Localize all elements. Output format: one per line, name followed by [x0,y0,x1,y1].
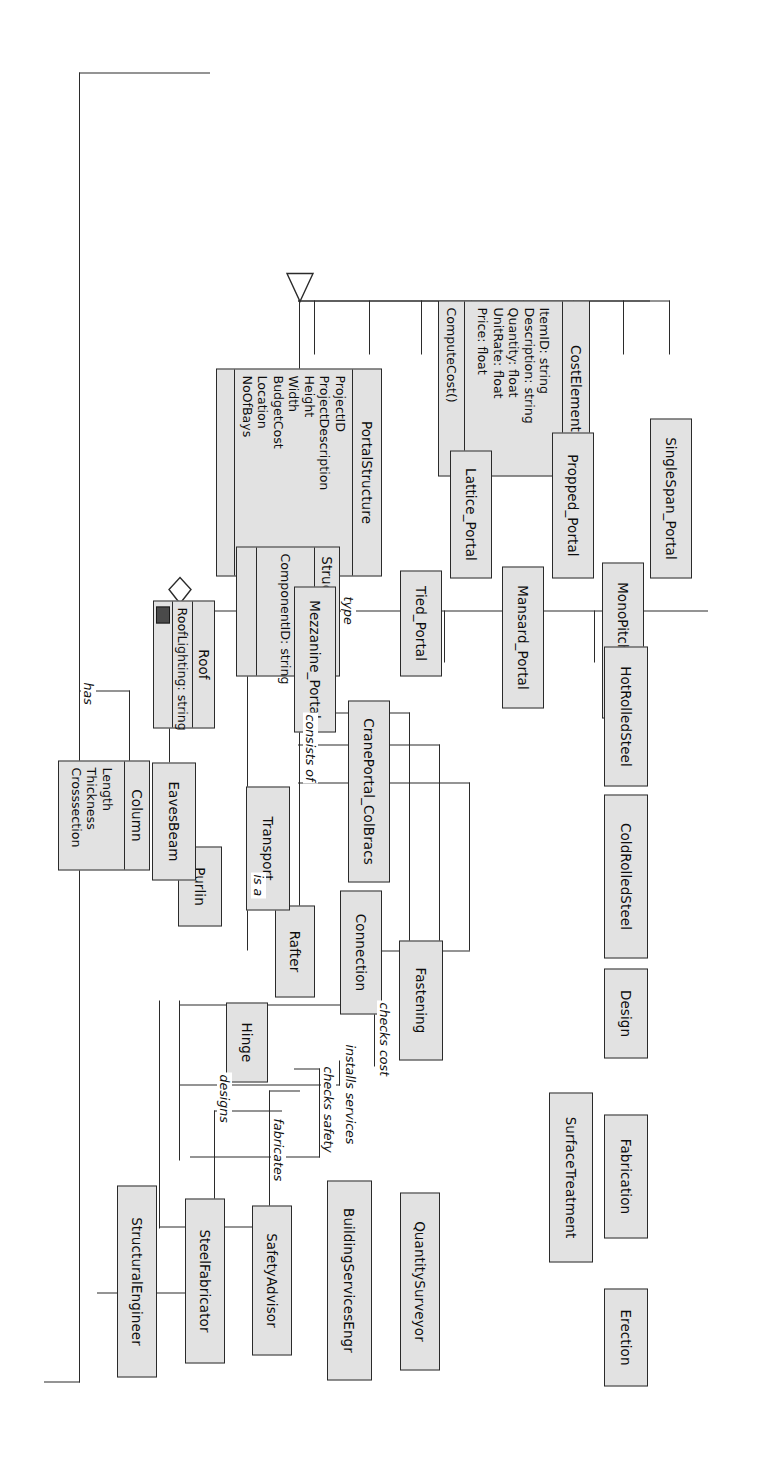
edge-roles-rail-b [159,1000,160,1228]
steelfabricator-name: SteelFabricator [197,1229,213,1332]
class-coldrolledsteel[interactable]: ColdRolledSteel [604,794,648,958]
class-hotrolledsteel[interactable]: HotRolledSteel [604,646,648,786]
edge-type-monopitch [623,300,624,354]
attribute: Quantity: float [506,307,522,469]
label-has: has [81,680,96,706]
class-surfacetreatment[interactable]: SurfaceTreatment [549,1092,593,1262]
edge-checks-safety-h [319,1068,320,1157]
attribute: Length [99,767,115,863]
class-propped-portal[interactable]: Propped_Portal [552,432,594,578]
portalstructure-name-compartment: PortalStructure [353,369,381,575]
quantitysurveyor-name: QuantitySurveyor [412,1221,428,1342]
fabrication-name: Fabrication [618,1138,634,1213]
eavesbeam-name: EavesBeam [166,781,182,861]
class-structuralengineer[interactable]: StructuralEngineer [117,1185,157,1377]
design-name: Design [618,989,634,1036]
connection-name: Connection [353,913,369,990]
attribute: Description: string [521,307,537,469]
edge-frame-rail3-h [409,712,410,950]
craneportal-colbracs-name-compartment: CranePortal_ColBracs [349,701,389,881]
edge-fabricates-v2 [269,1090,300,1091]
class-roof[interactable]: Roof RoofLighting: string [153,600,215,728]
singlespan-portal-name: SingleSpan_Portal [663,437,679,560]
portalstructure-operations [217,369,235,575]
singlespan-portal-name-compartment: SingleSpan_Portal [651,419,691,577]
class-buildingservicesengr[interactable]: BuildingServicesEngr [327,1180,372,1380]
edge-type-tied [421,300,422,354]
transport-name: Transport [260,816,276,880]
attribute: Width [286,375,302,569]
fabrication-name-compartment: Fabrication [605,1115,647,1237]
erection-name-compartment: Erection [605,1289,647,1385]
edge-installs-services-v [180,1084,340,1085]
edge-frame-rail2-h [439,744,440,950]
lattice-portal-name: Lattice_Portal [463,468,479,561]
class-fastening[interactable]: Fastening [399,940,443,1060]
class-mansard-portal[interactable]: Mansard_Portal [502,566,544,708]
hinge-name: Hinge [239,1022,255,1062]
column-name-compartment: Column [125,761,149,869]
quantitysurveyor-name-compartment: QuantitySurveyor [401,1193,439,1369]
class-craneportal-colbracs[interactable]: CranePortal_ColBracs [348,700,390,882]
attribute: Price: float [475,307,491,469]
edge-roles-rail-a [179,1000,180,1160]
class-column[interactable]: Column Length Thickness Crosssection [58,760,150,870]
roof-image-icon [156,606,170,623]
label-consists-of: consists of [303,712,318,783]
edge-type-singlespan [669,300,670,354]
surfacetreatment-name: SurfaceTreatment [563,1116,579,1238]
class-rafter[interactable]: Rafter [275,905,315,997]
edge-has-vertical-right [44,1381,80,1382]
buildingservicesengr-name-compartment: BuildingServicesEngr [328,1181,371,1379]
structuralengineer-name-compartment: StructuralEngineer [118,1186,156,1376]
attribute: NoOfBays [239,375,255,569]
class-fabrication[interactable]: Fabrication [604,1114,648,1238]
tied-portal-name: Tied_Portal [413,585,429,660]
mansard-portal-name: Mansard_Portal [515,585,531,690]
class-safetyadvisor[interactable]: SafetyAdvisor [252,1205,292,1355]
roof-name: Roof [196,607,212,721]
generalization-arrow-portalstructure [284,272,314,302]
class-steelfabricator[interactable]: SteelFabricator [185,1198,225,1363]
edge-has-horizontal [79,72,80,1382]
attribute: Thickness [84,767,100,863]
class-mezzanine-portal[interactable]: Mezzanine_Portal [294,586,336,732]
column-attributes: Length Thickness Crosssection [59,761,125,869]
structuralframe-operations [237,547,257,675]
portalstructure-attributes: ProjectID ProjectDescription Height Widt… [235,369,353,575]
attribute: ProjectID [332,375,348,569]
mezzanine-portal-name-compartment: Mezzanine_Portal [295,587,335,731]
safetyadvisor-name-compartment: SafetyAdvisor [253,1206,291,1354]
class-singlespan-portal[interactable]: SingleSpan_Portal [650,418,692,578]
class-design[interactable]: Design [604,968,648,1058]
class-hinge[interactable]: Hinge [226,1002,268,1082]
attribute: ItemID: string [537,307,553,469]
buildingservicesengr-name: BuildingServicesEngr [342,1208,358,1353]
propped-portal-name-compartment: Propped_Portal [553,433,593,577]
structuralengineer-name: StructuralEngineer [129,1217,145,1346]
roof-icon-compartment [154,601,173,727]
class-quantitysurveyor[interactable]: QuantitySurveyor [400,1192,440,1370]
roof-attributes: RoofLighting: string [173,601,194,727]
mansard-portal-name-compartment: Mansard_Portal [503,567,543,707]
attribute: ComponentID: string [278,553,294,669]
propped-portal-name: Propped_Portal [565,454,581,556]
attribute: BudgetCost [270,375,286,569]
class-portalstructure[interactable]: PortalStructure ProjectID ProjectDescrip… [216,368,382,576]
costelement-operations: ComputeCost() [439,301,465,475]
edge-frame-rail-h [469,782,470,950]
lattice-portal-name-compartment: Lattice_Portal [451,451,491,577]
label-fabricates: fabricates [271,1116,286,1183]
hotrolledsteel-name: HotRolledSteel [618,666,634,767]
class-lattice-portal[interactable]: Lattice_Portal [450,450,492,578]
class-erection[interactable]: Erection [604,1288,648,1386]
label-checks-cost: checks cost [377,1000,392,1078]
edge-cost-surface [594,610,595,662]
class-tied-portal[interactable]: Tied_Portal [400,570,442,676]
design-name-compartment: Design [605,969,647,1057]
class-eavesbeam[interactable]: EavesBeam [152,762,196,880]
edge-cost-fastening [444,610,445,662]
edge-checks-safety-v2 [294,1068,320,1069]
eavesbeam-name-compartment: EavesBeam [153,763,195,879]
class-connection[interactable]: Connection [340,890,382,1014]
